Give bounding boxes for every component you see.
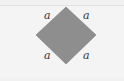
- side-label-bottom-left: a: [44, 49, 51, 62]
- side-label-top-right: a: [83, 9, 90, 22]
- side-label-top-left: a: [44, 9, 51, 22]
- diamond-diagram: a a a a: [0, 0, 124, 81]
- side-label-bottom-right: a: [83, 49, 90, 62]
